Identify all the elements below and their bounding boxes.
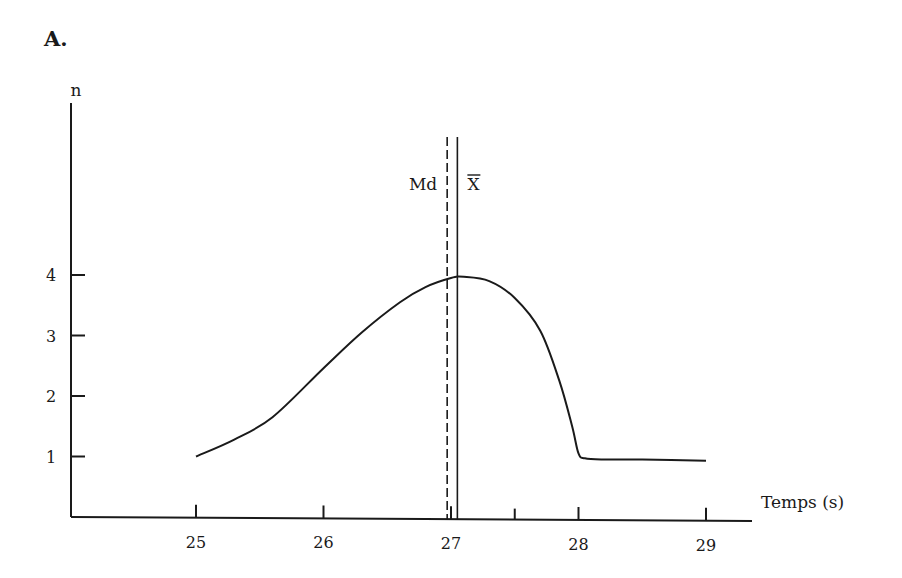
x-tick-label: 29	[696, 536, 716, 555]
frequency-curve	[196, 277, 706, 461]
y-tick-label: 3	[46, 327, 56, 346]
x-axis-label: Temps (s)	[761, 492, 844, 512]
x-tick-label: 26	[313, 533, 333, 552]
axes	[71, 103, 752, 521]
median-label: Md	[409, 174, 437, 194]
y-tick-label: 4	[46, 266, 56, 285]
x-tick-label: 27	[441, 534, 461, 553]
x-axis	[71, 517, 752, 521]
x-tick-label: 28	[568, 535, 588, 554]
reference-lines: MdX	[409, 137, 480, 519]
x-tick-label: 25	[186, 533, 206, 552]
y-tick-label: 2	[46, 387, 56, 406]
y-tick-label: 1	[46, 448, 56, 467]
ticks: 25262728291234	[46, 266, 716, 555]
line-chart: 25262728291234 MdX n Temps (s)	[0, 0, 902, 578]
mean-label: X	[467, 174, 480, 194]
y-axis-label: n	[71, 80, 82, 100]
